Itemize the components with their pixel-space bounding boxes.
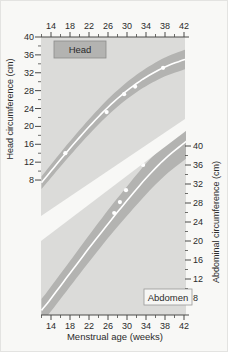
head-y-axis-tick-label: 36 <box>24 50 34 60</box>
fetal-growth-chart-figure: 40363228242016128Head circumference (cm)… <box>0 0 228 352</box>
abdomen-y-axis-title: Abdominal circumference (cm) <box>211 161 221 283</box>
head-y-axis-title: Head circumference (cm) <box>5 58 15 159</box>
top-x-axis-tick-label: 34 <box>141 21 151 31</box>
head-y-axis-tick-label: 24 <box>24 104 34 114</box>
bottom-x-axis-tick-label: 26 <box>103 321 113 331</box>
top-x-axis-tick-label: 22 <box>84 21 94 31</box>
abdomen-data-point <box>112 211 116 215</box>
head-data-point <box>105 110 109 114</box>
top-x-axis-tick-label: 26 <box>103 21 113 31</box>
abdomen-y-axis-tick-label: 16 <box>193 255 203 265</box>
bottom-x-axis-tick-label: 30 <box>122 321 132 331</box>
head-y-axis-tick-label: 8 <box>29 175 34 185</box>
x-axis-title: Menstrual age (weeks) <box>67 331 163 342</box>
head-label: Head <box>69 44 92 55</box>
abdomen-y-axis-tick-label: 8 <box>193 293 198 303</box>
bottom-x-axis-tick-label: 22 <box>84 321 94 331</box>
head-y-axis-tick-label: 28 <box>24 86 34 96</box>
abdomen-y-axis-tick-label: 36 <box>193 160 203 170</box>
abdomen-y-axis-tick-label: 28 <box>193 198 203 208</box>
head-data-point <box>122 92 126 96</box>
head-y-axis-tick-label: 16 <box>24 139 34 149</box>
top-x-axis-tick-label: 42 <box>179 21 189 31</box>
head-y-axis-tick-label: 40 <box>24 32 34 42</box>
abdomen-y-axis-tick-label: 24 <box>193 217 203 227</box>
head-y-axis-tick-label: 12 <box>24 157 34 167</box>
bottom-x-axis-tick-label: 38 <box>160 321 170 331</box>
head-data-point <box>161 66 165 70</box>
abdomen-y-axis-tick-label: 40 <box>193 141 203 151</box>
top-x-axis-tick-label: 18 <box>65 21 75 31</box>
abdomen-data-point <box>141 163 145 167</box>
head-data-point <box>63 151 67 155</box>
top-x-axis-tick-label: 14 <box>46 21 56 31</box>
bottom-x-axis-tick-label: 14 <box>46 321 56 331</box>
bottom-x-axis-tick-label: 34 <box>141 321 151 331</box>
abdomen-y-axis-tick-label: 12 <box>193 274 203 284</box>
growth-chart-svg: 40363228242016128Head circumference (cm)… <box>1 1 227 351</box>
bottom-x-axis-tick-label: 42 <box>179 321 189 331</box>
head-y-axis-tick-label: 32 <box>24 68 34 78</box>
abdomen-label: Abdomen <box>148 292 189 303</box>
abdomen-data-point <box>124 188 128 192</box>
top-x-axis-tick-label: 38 <box>160 21 170 31</box>
top-x-axis-tick-label: 30 <box>122 21 132 31</box>
head-data-point <box>133 85 137 89</box>
bottom-x-axis-tick-label: 18 <box>65 321 75 331</box>
abdomen-data-point <box>118 200 122 204</box>
head-y-axis-tick-label: 20 <box>24 121 34 131</box>
abdomen-data-point <box>158 142 162 146</box>
abdomen-y-axis-tick-label: 32 <box>193 179 203 189</box>
abdomen-y-axis-tick-label: 20 <box>193 236 203 246</box>
